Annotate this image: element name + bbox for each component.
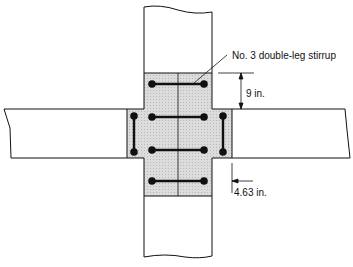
beam-left [4,109,127,158]
joint-region [127,73,232,196]
spacing-top-label: 9 in. [246,88,265,99]
column-upper [144,6,212,73]
joint-diagram [0,0,353,267]
column-lower [144,196,212,258]
stirrup-label: No. 3 double-leg stirrup [232,50,336,61]
beam-right [232,109,350,158]
spacing-side-label: 4.63 in. [234,187,267,198]
